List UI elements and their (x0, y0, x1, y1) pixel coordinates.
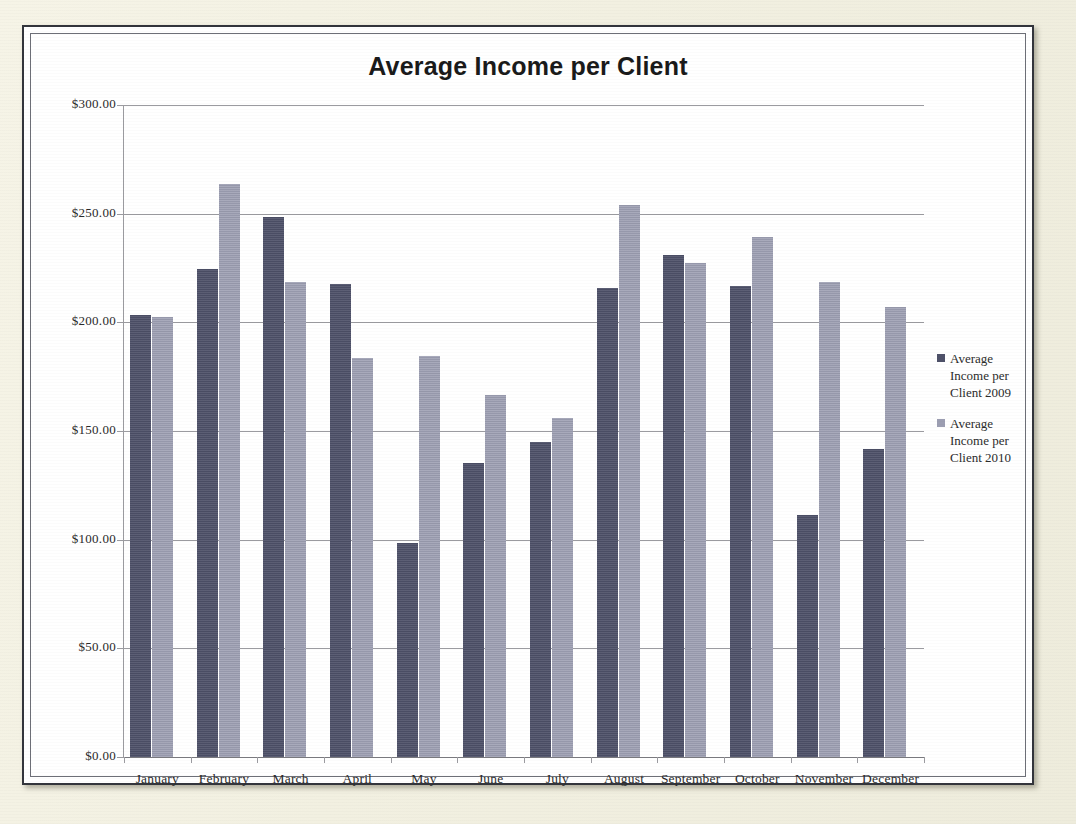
bar (419, 356, 440, 757)
y-axis-tick-label: $0.00 (85, 748, 116, 764)
x-axis-tick-label: August (591, 771, 658, 787)
y-axis-tick (117, 757, 124, 758)
x-axis-tick-label: January (124, 771, 191, 787)
x-axis-tick (924, 757, 925, 763)
y-axis-tick-label: $200.00 (72, 313, 116, 329)
bar-group (857, 105, 924, 757)
x-axis-tick (791, 757, 792, 763)
x-axis-tick (524, 757, 525, 763)
legend-label: Average Income per Client 2010 (950, 415, 1033, 466)
bar (285, 282, 306, 757)
bar (752, 237, 773, 758)
chart-frame: Average Income per Client $300.00$250.00… (22, 25, 1034, 785)
bar-series-container (124, 105, 924, 757)
bar-group (124, 105, 191, 757)
bar (485, 395, 506, 757)
bar-group (191, 105, 258, 757)
bar (463, 463, 484, 757)
x-axis-tick (257, 757, 258, 763)
x-axis-tick (191, 757, 192, 763)
chart-title: Average Income per Client (31, 52, 1025, 81)
bar (819, 282, 840, 757)
bar (219, 184, 240, 757)
x-axis-tick-label: November (791, 771, 858, 787)
y-axis-tick (117, 214, 124, 215)
x-axis-tick-label: September (657, 771, 724, 787)
bar (352, 358, 373, 757)
y-axis-tick-label: $100.00 (72, 531, 116, 547)
x-axis-tick-label: April (324, 771, 391, 787)
x-axis-tick-label: June (457, 771, 524, 787)
bar (397, 543, 418, 757)
x-axis-tick-label: February (191, 771, 258, 787)
chart-legend: Average Income per Client 2009Average In… (937, 350, 1033, 480)
x-axis-tick (324, 757, 325, 763)
bar (685, 263, 706, 757)
x-axis-tick (391, 757, 392, 763)
bar-group (391, 105, 458, 757)
y-axis-tick-label: $250.00 (72, 205, 116, 221)
bar (597, 288, 618, 757)
x-axis-tick-labels: JanuaryFebruaryMarchAprilMayJuneJulyAugu… (124, 765, 924, 795)
x-axis-tick-label: July (524, 771, 591, 787)
x-axis-tick (724, 757, 725, 763)
y-axis-tick (117, 431, 124, 432)
bar-group (524, 105, 591, 757)
bar (663, 255, 684, 757)
y-axis-tick (117, 540, 124, 541)
x-axis-tick-label: May (391, 771, 458, 787)
x-axis-tick (857, 757, 858, 763)
y-axis-tick (117, 648, 124, 649)
x-axis-tick-label: March (257, 771, 324, 787)
bar (152, 317, 173, 757)
y-axis-tick (117, 105, 124, 106)
bar (130, 315, 151, 757)
bar (885, 307, 906, 757)
x-axis-tick-label: October (724, 771, 791, 787)
legend-entry: Average Income per Client 2010 (937, 415, 1033, 466)
y-axis-tick-label: $300.00 (72, 96, 116, 112)
bar (197, 269, 218, 757)
bar-group (257, 105, 324, 757)
bar (330, 284, 351, 757)
bar-group (791, 105, 858, 757)
x-axis-tick (657, 757, 658, 763)
bar-group (457, 105, 524, 757)
y-axis-tick-labels: $300.00$250.00$200.00$150.00$100.00$50.0… (36, 105, 116, 757)
legend-label: Average Income per Client 2009 (950, 350, 1033, 401)
x-axis-tick (457, 757, 458, 763)
bar (797, 515, 818, 757)
legend-swatch-icon (937, 419, 945, 427)
chart-frame-inner-border: Average Income per Client $300.00$250.00… (30, 33, 1026, 777)
bar (863, 449, 884, 757)
bar (730, 286, 751, 757)
y-axis-tick (117, 322, 124, 323)
bar-group (724, 105, 791, 757)
plot-area: $300.00$250.00$200.00$150.00$100.00$50.0… (124, 105, 924, 757)
bar-group (657, 105, 724, 757)
scanned-page: Average Income per Client $300.00$250.00… (0, 0, 1076, 824)
x-axis-tick (591, 757, 592, 763)
bar (530, 442, 551, 757)
bar (552, 418, 573, 757)
bar-group (324, 105, 391, 757)
bar (263, 217, 284, 757)
bar-group (591, 105, 658, 757)
x-axis-tick (124, 757, 125, 763)
bar (619, 205, 640, 757)
y-axis-tick-label: $150.00 (72, 422, 116, 438)
x-axis-tick-label: December (857, 771, 924, 787)
legend-entry: Average Income per Client 2009 (937, 350, 1033, 401)
y-axis-tick-label: $50.00 (78, 639, 116, 655)
legend-swatch-icon (937, 354, 945, 362)
